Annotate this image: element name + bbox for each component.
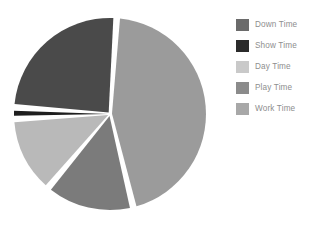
pie-slice-down-time[interactable]: [15, 18, 114, 112]
legend-item-work-time[interactable]: Work Time: [236, 102, 315, 115]
legend-swatch-icon-down-time: [236, 19, 249, 31]
legend-label-show-time: Show Time: [255, 40, 297, 52]
pie-chart-figure: Down Time Show Time Day Time Play Time W…: [0, 0, 315, 226]
legend-item-play-time[interactable]: Play Time: [236, 81, 315, 94]
chart-legend: Down Time Show Time Day Time Play Time W…: [236, 18, 315, 115]
pie-slice-work-time[interactable]: [112, 19, 206, 207]
legend-label-work-time: Work Time: [255, 103, 295, 115]
legend-item-down-time[interactable]: Down Time: [236, 18, 315, 31]
legend-swatch-icon-show-time: [236, 40, 249, 52]
pie-svg: [0, 0, 225, 226]
legend-swatch-icon-work-time: [236, 103, 249, 115]
legend-swatch-icon-play-time: [236, 82, 249, 94]
legend-label-play-time: Play Time: [255, 82, 292, 94]
legend-item-show-time[interactable]: Show Time: [236, 39, 315, 52]
pie-slice-show-time[interactable]: [14, 111, 108, 116]
legend-item-day-time[interactable]: Day Time: [236, 60, 315, 73]
legend-swatch-icon-day-time: [236, 61, 249, 73]
legend-label-down-time: Down Time: [255, 19, 297, 31]
legend-label-day-time: Day Time: [255, 61, 291, 73]
pie-plot-area: [0, 0, 225, 226]
